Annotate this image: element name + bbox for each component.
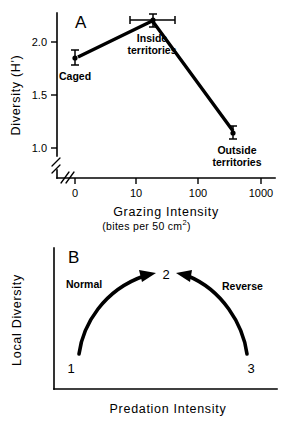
y-tick-label-3: 2.0 — [32, 36, 47, 48]
label-outside-territories-line2: territories — [212, 156, 261, 168]
data-point-caged — [71, 50, 79, 65]
label-inside-territories-line1: Inside — [137, 32, 168, 44]
y-tick-label-1: 1.0 — [32, 142, 47, 154]
panel-b-plot: B Local Diversity Predation Intensity No… — [0, 232, 293, 424]
panel-b-letter: B — [68, 248, 79, 267]
outside-marker — [230, 130, 235, 135]
y-axis-break-icon — [52, 158, 60, 173]
panel-a-plot: 1.0 1.5 2.0 0 10 100 1000 A Diversity (H… — [0, 0, 293, 232]
panel-a-x-axis-title: Grazing Intensity — [113, 205, 219, 219]
x-tick-label-0: 0 — [72, 187, 78, 199]
caged-marker — [72, 55, 77, 60]
node-label-3: 3 — [247, 361, 254, 376]
x-tick-label-100: 100 — [189, 187, 207, 199]
data-point-inside-territories — [130, 14, 175, 27]
x-tick-label-1000: 1000 — [249, 187, 273, 199]
y-tick-label-2: 1.5 — [32, 89, 47, 101]
node-label-1: 1 — [67, 361, 74, 376]
panel-a-y-axis-title: Diversity (H') — [9, 55, 23, 136]
x-tick-group — [75, 178, 261, 184]
x-axis-subtitle-post: ) — [187, 220, 191, 232]
panel-a: 1.0 1.5 2.0 0 10 100 1000 A Diversity (H… — [0, 0, 293, 232]
inside-marker — [150, 17, 155, 22]
arrow-head-normal — [139, 270, 156, 282]
panel-b-x-axis-title: Predation Intensity — [110, 402, 227, 416]
figure-container: 1.0 1.5 2.0 0 10 100 1000 A Diversity (H… — [0, 0, 293, 424]
panel-b: B Local Diversity Predation Intensity No… — [0, 232, 293, 424]
x-tick-label-10: 10 — [130, 187, 142, 199]
arrow-head-reverse — [176, 270, 192, 282]
label-inside-territories-line2: territories — [127, 44, 176, 56]
flow-label-normal: Normal — [66, 278, 102, 290]
panel-b-y-axis-title: Local Diversity — [10, 274, 24, 366]
x-axis-subtitle-pre: (bites per 50 cm — [102, 220, 182, 232]
flow-label-reverse: Reverse — [222, 280, 263, 292]
y-tick-group — [51, 42, 57, 148]
label-caged: Caged — [59, 70, 91, 82]
panel-a-letter: A — [75, 13, 87, 32]
label-outside-territories-line1: Outside — [217, 144, 256, 156]
node-label-2: 2 — [162, 267, 169, 282]
panel-a-x-axis-subtitle: (bites per 50 cm2) — [0, 218, 293, 232]
